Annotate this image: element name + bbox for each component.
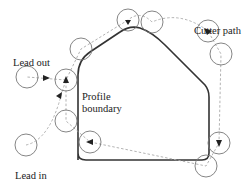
arrow-lead-in-icon — [56, 92, 62, 99]
cutter-path-label: Cutter path — [194, 25, 241, 36]
arrow-top-icon — [125, 20, 131, 25]
cutter-circle-lead-out — [16, 66, 38, 88]
profile-boundary-label-line2: boundary — [82, 103, 122, 114]
direction-arrows — [43, 20, 222, 147]
cutter-path-line — [26, 15, 221, 166]
lead-in-label: Lead in — [15, 170, 47, 181]
arrow-lead-out-icon — [43, 75, 50, 81]
lead-out-label: Lead out — [13, 57, 50, 68]
profile-boundary-label-line1: Profile — [82, 91, 111, 102]
